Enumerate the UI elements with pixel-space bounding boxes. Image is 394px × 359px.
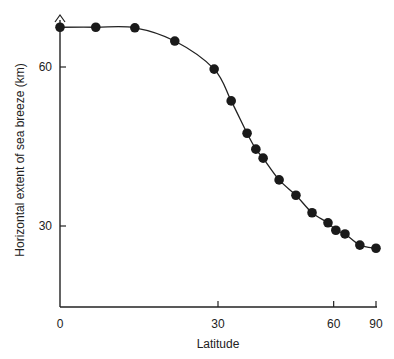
- axes: 0306090 3060: [39, 15, 383, 331]
- y-tick-label: 30: [39, 219, 53, 233]
- data-point: [340, 229, 350, 239]
- y-tick-label: 60: [39, 60, 53, 74]
- data-point: [251, 144, 261, 154]
- data-point: [130, 23, 140, 33]
- data-point: [323, 218, 333, 228]
- data-point: [258, 153, 268, 163]
- data-point: [355, 240, 365, 250]
- x-tick-label: 90: [369, 317, 383, 331]
- data-point: [291, 190, 301, 200]
- data-points: [55, 22, 381, 253]
- data-point: [371, 243, 381, 253]
- data-point: [170, 36, 180, 46]
- chart-canvas: 0306090 3060 Latitude Horizontal extent …: [0, 0, 394, 359]
- x-axis-label: Latitude: [197, 337, 240, 351]
- data-point: [226, 96, 236, 106]
- x-tick-label: 0: [57, 317, 64, 331]
- data-point: [307, 208, 317, 218]
- fitted-curve: [60, 27, 376, 249]
- data-point: [274, 175, 284, 185]
- data-point: [242, 128, 252, 138]
- y-axis-label: Horizontal extent of sea breeze (km): [13, 63, 27, 256]
- x-tick-label: 60: [327, 317, 341, 331]
- data-point: [91, 22, 101, 32]
- data-point: [55, 22, 65, 32]
- x-tick-label: 30: [211, 317, 225, 331]
- x-ticks: 0306090: [57, 301, 383, 331]
- data-point: [331, 225, 341, 235]
- data-point: [209, 64, 219, 74]
- y-ticks: 3060: [39, 60, 66, 233]
